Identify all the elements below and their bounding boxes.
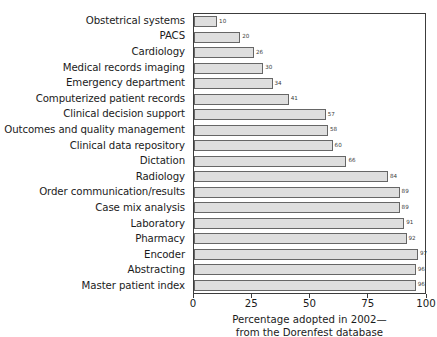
category-label: Encoder [0,247,189,263]
category-label: Clinical data repository [0,138,189,154]
category-axis-labels: Obstetrical systemsPACSCardiologyMedical… [0,13,189,294]
bar-row: 10 [194,14,425,30]
bar: 26 [194,47,254,58]
bar-row: 26 [194,45,425,61]
x-axis-tick-label: 75 [361,299,374,309]
bar: 89 [194,202,400,213]
bar-row: 57 [194,107,425,123]
bar-value-label: 96 [418,282,425,288]
category-label: Radiology [0,169,189,185]
bar-value-label: 97 [420,251,427,257]
category-label: Laboratory [0,216,189,232]
bar-value-label: 20 [242,34,249,40]
category-label: Obstetrical systems [0,13,189,29]
category-label: PACS [0,29,189,45]
bar-value-label: 91 [406,220,413,226]
category-label: Master patient index [0,278,189,294]
bar: 92 [194,233,407,244]
bar-row: 58 [194,123,425,139]
bar-row: 89 [194,185,425,201]
bar-row: 96 [194,278,425,294]
bar: 20 [194,32,240,43]
bar-row: 97 [194,247,425,263]
bar-value-label: 89 [402,189,409,195]
category-label: Medical records imaging [0,60,189,76]
bar-row: 41 [194,92,425,108]
bar-row: 20 [194,30,425,46]
category-label: Case mix analysis [0,200,189,216]
bar-value-label: 58 [330,127,337,133]
bar-value-label: 30 [265,65,272,71]
bar-row: 66 [194,154,425,170]
x-axis-tick-label: 50 [303,299,316,309]
bars-container: 102026303441575860668489899192979696 [194,14,425,293]
bar-value-label: 84 [390,174,397,180]
x-axis-tick-label: 25 [245,299,258,309]
x-axis-caption-line-2: from the Dorenfest database [193,326,426,337]
bar-value-label: 92 [409,236,416,242]
bar-row: 60 [194,138,425,154]
bar-value-label: 66 [348,158,355,164]
bar-row: 91 [194,216,425,232]
x-axis-caption: Percentage adopted in 2002— from the Dor… [193,313,426,337]
bar: 30 [194,63,263,74]
bar: 89 [194,187,400,198]
category-label: Dictation [0,153,189,169]
x-axis-tick-label: 0 [190,299,196,309]
bar-value-label: 60 [335,143,342,149]
category-label: Emergency department [0,75,189,91]
bar-row: 34 [194,76,425,92]
category-label: Pharmacy [0,232,189,248]
category-label: Order communication/results [0,185,189,201]
bar-row: 30 [194,61,425,77]
category-label: Abstracting [0,263,189,279]
bar-value-label: 10 [219,19,226,25]
bar: 91 [194,218,404,229]
bar: 96 [194,280,416,291]
x-axis-caption-line-1: Percentage adopted in 2002— [193,313,426,326]
bar: 97 [194,249,418,260]
bar: 96 [194,264,416,275]
category-label: Outcomes and quality management [0,122,189,138]
bar-row: 92 [194,231,425,247]
bar-row: 96 [194,262,425,278]
bar: 58 [194,125,328,136]
x-axis-tick-label: 100 [416,299,435,309]
bar-chart-figure: Obstetrical systemsPACSCardiologyMedical… [0,0,437,337]
bar-row: 89 [194,200,425,216]
bar-row: 84 [194,169,425,185]
bar: 34 [194,78,273,89]
bar: 66 [194,156,346,167]
bar: 84 [194,171,388,182]
category-label: Clinical decision support [0,107,189,123]
bar-value-label: 41 [291,96,298,102]
bar-value-label: 89 [402,205,409,211]
bar-value-label: 34 [275,81,282,87]
category-label: Computerized patient records [0,91,189,107]
plot-area-frame: 102026303441575860668489899192979696 [193,13,426,294]
bar-value-label: 57 [328,112,335,118]
bar-value-label: 96 [418,267,425,273]
bar-value-label: 26 [256,50,263,56]
bar: 41 [194,94,289,105]
bar: 10 [194,16,217,27]
category-label: Cardiology [0,44,189,60]
bar: 60 [194,140,333,151]
bar: 57 [194,109,326,120]
